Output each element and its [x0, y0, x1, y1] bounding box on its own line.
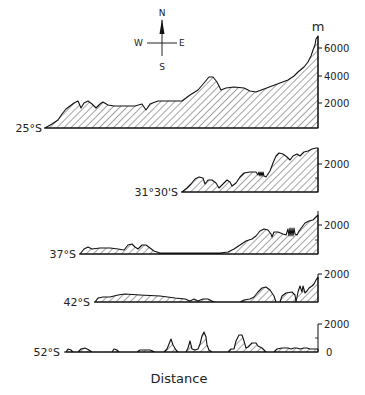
scale-label-2000: 2000 — [324, 220, 349, 231]
compass-rose-icon: N S W E — [134, 8, 185, 72]
unit-label: m — [312, 19, 325, 34]
latitude-label: 25°S — [16, 122, 42, 135]
profile-31-30s: 2000 31°30'S — [134, 148, 349, 199]
north-arrow-icon — [160, 19, 165, 34]
compass-west-label: W — [134, 38, 143, 48]
scale-label-4000: 4000 — [324, 71, 349, 82]
scale-label-0: 0 — [326, 347, 332, 358]
latitude-label: 37°S — [50, 248, 76, 261]
profile-52s: 2000 0 52°S — [34, 319, 350, 359]
scale-label-6000: 6000 — [324, 43, 349, 54]
profile-37s: 2000 37°S — [50, 211, 350, 261]
compass-north-label: N — [159, 8, 166, 18]
scale-label-2000: 2000 — [324, 98, 349, 109]
profile-25s: 6000 4000 2000 25°S — [16, 36, 350, 135]
latitude-label: 42°S — [64, 296, 90, 309]
latitude-label: 52°S — [34, 346, 60, 359]
compass-south-label: S — [159, 62, 165, 72]
latitude-label: 31°30'S — [134, 186, 178, 199]
x-axis-label: Distance — [151, 371, 208, 386]
scale-label-2000: 2000 — [324, 159, 349, 170]
profile-42s: 2000 42°S — [64, 269, 350, 309]
topographic-profiles-diagram: N S W E m 6000 4000 2000 25°S 2000 31°30… — [0, 0, 365, 395]
scale-label-2000: 2000 — [324, 319, 349, 330]
scale-label-2000: 2000 — [324, 269, 349, 280]
compass-east-label: E — [179, 38, 185, 48]
